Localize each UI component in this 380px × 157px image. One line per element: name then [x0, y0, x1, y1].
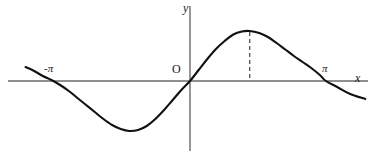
tick-label-pi: π	[322, 63, 328, 74]
plot-canvas	[0, 0, 380, 157]
function-graph-figure: y x -π π O	[0, 0, 380, 157]
x-axis-label: x	[355, 72, 360, 84]
origin-label: O	[172, 63, 181, 75]
tick-label-negative-pi: -π	[44, 63, 53, 74]
y-axis-label: y	[183, 2, 188, 14]
